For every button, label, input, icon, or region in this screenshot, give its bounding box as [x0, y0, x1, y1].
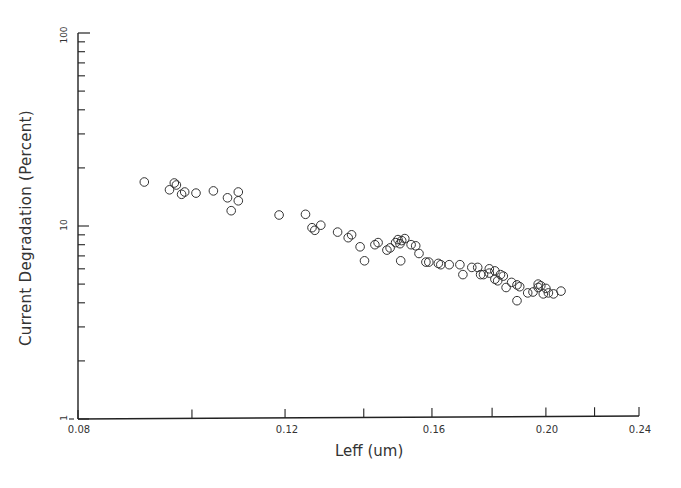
x-axis-label: Leff (um): [335, 442, 403, 460]
data-point-marker: [529, 288, 538, 297]
data-point-marker: [502, 283, 511, 292]
y-axis-label: Current Degradation (Percent): [17, 110, 35, 346]
x-tick-label: 0.24: [629, 424, 651, 435]
data-point-marker: [317, 221, 326, 230]
x-axis-line: [78, 416, 639, 419]
data-point-marker: [437, 260, 446, 269]
data-points: [140, 178, 565, 305]
data-point-marker: [513, 281, 522, 290]
chart-axes: [69, 33, 639, 419]
data-point-marker: [172, 181, 181, 190]
y-tick-label: 100: [59, 26, 69, 43]
data-point-marker: [396, 257, 405, 266]
y-tick-label: 1: [59, 415, 69, 421]
data-point-marker: [192, 189, 201, 198]
data-point-marker: [515, 282, 524, 291]
y-tick-label: 10: [59, 219, 69, 230]
data-point-marker: [360, 257, 369, 266]
data-point-marker: [456, 260, 465, 269]
x-tick-label: 0.12: [276, 424, 298, 435]
scatter-chart: [0, 0, 681, 488]
data-point-marker: [499, 272, 508, 281]
x-tick-label: 0.20: [536, 424, 558, 435]
data-point-marker: [537, 282, 546, 291]
data-point-marker: [223, 194, 232, 203]
data-point-marker: [445, 260, 454, 269]
data-point-marker: [227, 206, 236, 215]
data-point-marker: [333, 228, 342, 237]
x-tick-label: 0.16: [423, 424, 445, 435]
data-point-marker: [459, 270, 468, 279]
data-point-marker: [234, 188, 243, 197]
data-point-marker: [513, 296, 522, 305]
x-tick-label: 0.08: [68, 424, 90, 435]
data-point-marker: [234, 197, 243, 206]
data-point-marker: [275, 211, 284, 220]
data-point-marker: [301, 210, 310, 219]
data-point-marker: [140, 178, 149, 187]
data-point-marker: [356, 243, 365, 252]
data-point-marker: [170, 179, 179, 188]
data-point-marker: [415, 249, 424, 258]
data-point-marker: [507, 278, 516, 287]
data-point-marker: [557, 287, 566, 296]
data-point-marker: [209, 187, 218, 196]
